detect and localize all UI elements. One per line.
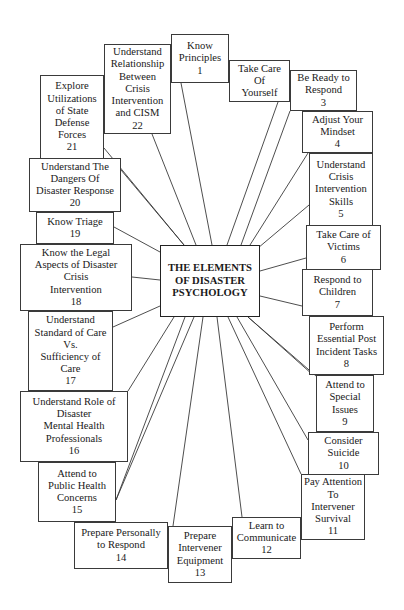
element-box-17: Understand Standard of Care Vs. Sufficie… — [28, 311, 113, 391]
connector-line-2 — [227, 102, 278, 245]
element-box-13: Prepare Intervener Equipment 13 — [168, 526, 232, 583]
connector-line-22 — [152, 134, 196, 245]
element-box-7: Respond to Children 7 — [302, 269, 373, 316]
element-label: Know Principles 1 — [179, 40, 221, 77]
element-label: Learn to Communicate 12 — [237, 520, 296, 557]
center-title-box: THE ELEMENTS OF DISASTER PSYCHOLOGY — [160, 245, 260, 317]
element-label: Attend to Special Issues 9 — [325, 379, 365, 428]
connector-line-1 — [181, 83, 212, 245]
element-box-11: Pay Attention To Intervener Survival 11 — [301, 474, 365, 540]
element-label: Respond to Children 7 — [314, 274, 362, 311]
element-label: Consider Suicide 10 — [324, 435, 362, 472]
element-label: Attend to Public Health Concerns 15 — [48, 468, 106, 517]
element-box-4: Adjust Your Mindset 4 — [302, 111, 373, 153]
element-label: Understand Standard of Care Vs. Sufficie… — [35, 314, 107, 387]
element-box-9: Attend to Special Issues 9 — [316, 375, 374, 432]
element-label: Adjust Your Mindset 4 — [312, 114, 363, 151]
center-title: THE ELEMENTS OF DISASTER PSYCHOLOGY — [168, 262, 252, 300]
element-box-19: Know Triage 19 — [36, 212, 114, 244]
element-label: Prepare Personally to Respond 14 — [81, 527, 161, 564]
element-box-15: Attend to Public Health Concerns 15 — [38, 462, 116, 522]
connector-line-7 — [260, 296, 302, 306]
element-box-12: Learn to Communicate 12 — [232, 517, 301, 559]
connector-line-5 — [258, 205, 309, 248]
connector-line-18 — [132, 277, 160, 280]
element-box-2: Take Care Of Yourself — [229, 60, 290, 102]
element-box-1: Know Principles 1 — [171, 34, 229, 83]
element-box-21: Explore Utilizations of State Defense Fo… — [40, 75, 104, 159]
connector-line-10 — [237, 317, 308, 440]
element-box-22: Understand Relationship Between Crisis I… — [104, 44, 171, 134]
element-label: Perform Essential Post Incident Tasks 8 — [316, 321, 377, 370]
connector-line-6 — [260, 258, 306, 271]
element-box-5: Understand Crisis Intervention Skills 5 — [309, 153, 373, 226]
element-box-3: Be Ready to Respond 3 — [290, 70, 357, 111]
element-label: Prepare Intervener Equipment 13 — [177, 530, 224, 579]
element-box-10: Consider Suicide 10 — [308, 432, 379, 475]
element-label: Understand Crisis Intervention Skills 5 — [315, 159, 367, 220]
connector-line-11 — [228, 317, 301, 474]
element-box-16: Understand Role of Disaster Mental Healt… — [20, 391, 128, 462]
element-label: Pay Attention To Intervener Survival 11 — [304, 476, 362, 537]
element-box-20: Understand The Dangers Of Disaster Respo… — [29, 158, 121, 212]
element-label: Take Care Of Yourself — [238, 63, 281, 100]
connector-line-9 — [248, 317, 316, 376]
element-label: Explore Utilizations of State Defense Fo… — [47, 80, 96, 153]
element-label: Understand Role of Disaster Mental Healt… — [33, 396, 116, 457]
element-box-14: Prepare Personally to Respond 14 — [74, 522, 168, 569]
connector-line-12 — [217, 317, 242, 517]
element-label: Be Ready to Respond 3 — [297, 72, 349, 109]
element-label: Understand The Dangers Of Disaster Respo… — [36, 161, 114, 210]
diagram-canvas: THE ELEMENTS OF DISASTER PSYCHOLOGY Know… — [0, 0, 404, 610]
element-box-18: Know the Legal Aspects of Disaster Crisi… — [20, 244, 132, 311]
element-box-8: Perform Essential Post Incident Tasks 8 — [309, 316, 384, 375]
connector-line-3 — [241, 111, 290, 245]
element-box-6: Take Care of Victims 6 — [306, 225, 381, 270]
element-label: Know Triage 19 — [47, 216, 103, 240]
element-label: Take Care of Victims 6 — [316, 229, 371, 266]
connector-line-4 — [250, 153, 308, 245]
element-label: Understand Relationship Between Crisis I… — [111, 46, 165, 131]
connector-line-13 — [173, 317, 203, 526]
element-label: Know the Legal Aspects of Disaster Crisi… — [35, 247, 117, 308]
